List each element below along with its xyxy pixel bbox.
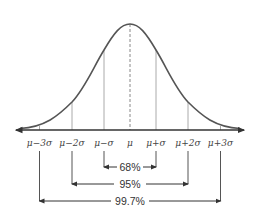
range-99-7: 99.7% bbox=[40, 195, 221, 207]
range-99-7-label: 99.7% bbox=[115, 195, 145, 207]
label-mu-plus-2sigma: μ+2σ bbox=[175, 138, 201, 148]
label-mu-minus-3sigma: μ−3σ bbox=[27, 138, 53, 148]
range-droplines bbox=[40, 151, 221, 201]
axis-labels: μ−3σ μ−2σ μ−σ μ μ+σ μ+2σ μ+3σ bbox=[27, 138, 234, 148]
label-mu-plus-sigma: μ+σ bbox=[146, 138, 166, 148]
range-68-label: 68% bbox=[119, 161, 140, 173]
label-mu-minus-sigma: μ−σ bbox=[94, 138, 114, 148]
label-mu-plus-3sigma: μ+3σ bbox=[208, 138, 234, 148]
range-68: 68% bbox=[104, 161, 156, 173]
range-95-label: 95% bbox=[119, 178, 140, 190]
label-mu-minus-2sigma: μ−2σ bbox=[59, 138, 85, 148]
label-mu: μ bbox=[127, 138, 133, 148]
diagram-canvas: μ−3σ μ−2σ μ−σ μ μ+σ μ+2σ μ+3σ 68% bbox=[0, 0, 258, 220]
range-95: 95% bbox=[72, 178, 188, 190]
normal-distribution-diagram: μ−3σ μ−2σ μ−σ μ μ+σ μ+2σ μ+3σ 68% bbox=[0, 0, 258, 220]
